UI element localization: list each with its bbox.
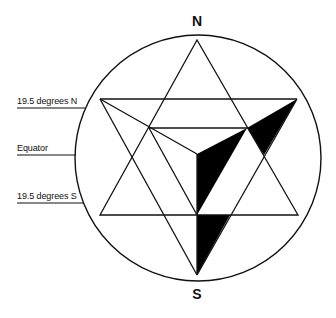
latitude-label-19-5-n: 19.5 degrees N xyxy=(17,96,77,106)
star-tetrahedron-diagram xyxy=(0,0,336,318)
south-pole-label: S xyxy=(192,286,201,302)
shaded-face-center xyxy=(197,128,247,215)
north-pole-label: N xyxy=(192,13,202,29)
shaded-face-right xyxy=(247,99,297,155)
latitude-label-19-5-s: 19.5 degrees S xyxy=(17,191,77,201)
latitude-label-equator: Equator xyxy=(17,143,48,153)
